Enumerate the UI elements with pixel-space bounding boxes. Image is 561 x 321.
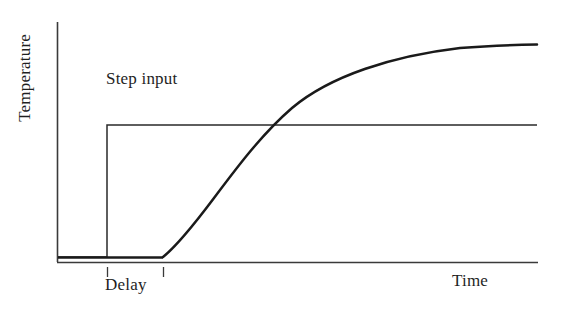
step-input-annotation: Step input [106,70,177,87]
response-series [163,45,537,258]
step-input-series [58,125,537,257]
y-axis-label: Temperature [16,34,33,122]
delay-label: Delay [105,276,147,293]
x-axis-label: Time [452,272,488,289]
chart-figure: Temperature Time Delay Step input [0,0,561,321]
